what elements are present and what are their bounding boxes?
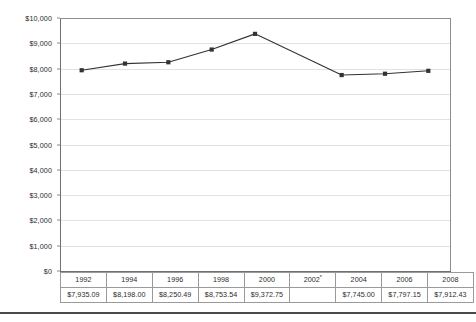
table-cell-value: $7,912.43 xyxy=(428,288,474,303)
table-cell-value-empty xyxy=(290,288,336,303)
table-cell-year: 2000 xyxy=(244,273,290,288)
table-cell-value: $7,935.09 xyxy=(61,288,107,303)
table-row-values: $7,935.09$8,198.00$8,250.49$8,753.54$9,3… xyxy=(61,288,474,303)
table-cell-value: $8,198.00 xyxy=(106,288,152,303)
table-cell-value: $8,250.49 xyxy=(152,288,198,303)
table-cell-year: 1996 xyxy=(152,273,198,288)
table-row-years: 199219941996199820002002*200420062008 xyxy=(61,273,474,288)
chart-figure: $0$1,000$2,000$3,000$4,000$5,000$6,000$7… xyxy=(0,0,476,322)
footer-divider xyxy=(0,312,476,314)
table-cell-year: 2006 xyxy=(382,273,428,288)
data-point-marker xyxy=(123,61,127,65)
table-cell-value: $7,745.00 xyxy=(336,288,382,303)
data-point-marker xyxy=(80,68,84,72)
table-cell-year: 2004 xyxy=(336,273,382,288)
data-series-line xyxy=(0,0,476,272)
table-cell-year: 2008 xyxy=(428,273,474,288)
table-cell-year: 1998 xyxy=(198,273,244,288)
data-point-marker xyxy=(210,47,214,51)
table-cell-year: 1992 xyxy=(61,273,107,288)
table-cell-year: 2002* xyxy=(290,273,336,288)
table-cell-value: $9,372.75 xyxy=(244,288,290,303)
footnote-marker: * xyxy=(320,274,322,280)
table-cell-year: 1994 xyxy=(106,273,152,288)
data-point-marker xyxy=(166,60,170,64)
table-cell-value: $7,797.15 xyxy=(382,288,428,303)
series-polyline xyxy=(82,34,429,75)
data-table: 199219941996199820002002*200420062008 $7… xyxy=(60,272,474,303)
plot-area: $0$1,000$2,000$3,000$4,000$5,000$6,000$7… xyxy=(0,0,476,272)
data-point-marker xyxy=(426,69,430,73)
data-point-marker xyxy=(383,72,387,76)
table-cell-value: $8,753.54 xyxy=(198,288,244,303)
data-point-marker xyxy=(340,73,344,77)
data-point-marker xyxy=(253,32,257,36)
